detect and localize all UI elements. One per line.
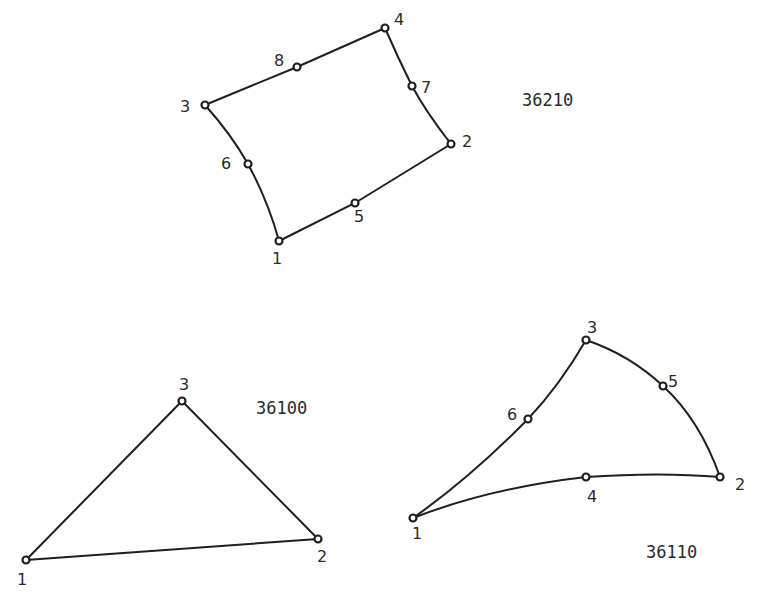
node-label: 2 [462, 132, 472, 151]
edge-1-5-2 [279, 144, 451, 241]
node-5 [660, 383, 667, 390]
node-label: 6 [507, 405, 517, 424]
node-3 [202, 102, 209, 109]
node-label: 1 [17, 570, 27, 589]
element-label: 36110 [646, 542, 697, 562]
node-label: 8 [274, 51, 284, 70]
edge-3-6-1 [205, 105, 279, 241]
element-diagram: 12345678 36210 123 36100 123456 36110 [0, 0, 760, 594]
edge-2-7-4 [385, 28, 451, 144]
node-2 [315, 536, 322, 543]
node-label: 4 [587, 487, 597, 506]
node-label: 2 [317, 547, 327, 566]
element-label: 36210 [522, 90, 573, 110]
node-2 [448, 141, 455, 148]
node-5 [352, 200, 359, 207]
node-label: 7 [421, 78, 431, 97]
node-label: 3 [180, 97, 190, 116]
node-8 [294, 64, 301, 71]
node-label: 1 [412, 524, 422, 543]
node-label: 2 [735, 475, 745, 494]
node-label: 5 [668, 372, 678, 391]
element-36110: 123456 36110 [410, 318, 746, 562]
edge-3-1 [26, 401, 182, 560]
node-6 [245, 161, 252, 168]
edge-2-3 [182, 401, 318, 539]
edge-1-2 [26, 539, 318, 560]
node-1 [276, 238, 283, 245]
node-2 [717, 474, 724, 481]
node-7 [409, 83, 416, 90]
node-label: 3 [179, 375, 189, 394]
edge-2-5-3 [586, 340, 720, 477]
node-3 [583, 337, 590, 344]
node-label: 5 [354, 207, 364, 226]
node-label: 1 [272, 249, 282, 268]
node-label: 3 [587, 318, 597, 337]
node-label: 4 [394, 10, 404, 29]
element-36210: 12345678 36210 [180, 10, 573, 268]
node-1 [410, 515, 417, 522]
node-1 [23, 557, 30, 564]
edge-1-4-2 [413, 475, 720, 519]
element-36100: 123 36100 [17, 375, 327, 589]
node-6 [525, 416, 532, 423]
element-label: 36100 [256, 398, 307, 418]
node-3 [179, 398, 186, 405]
node-4 [382, 25, 389, 32]
node-label: 6 [221, 154, 231, 173]
node-4 [583, 474, 590, 481]
